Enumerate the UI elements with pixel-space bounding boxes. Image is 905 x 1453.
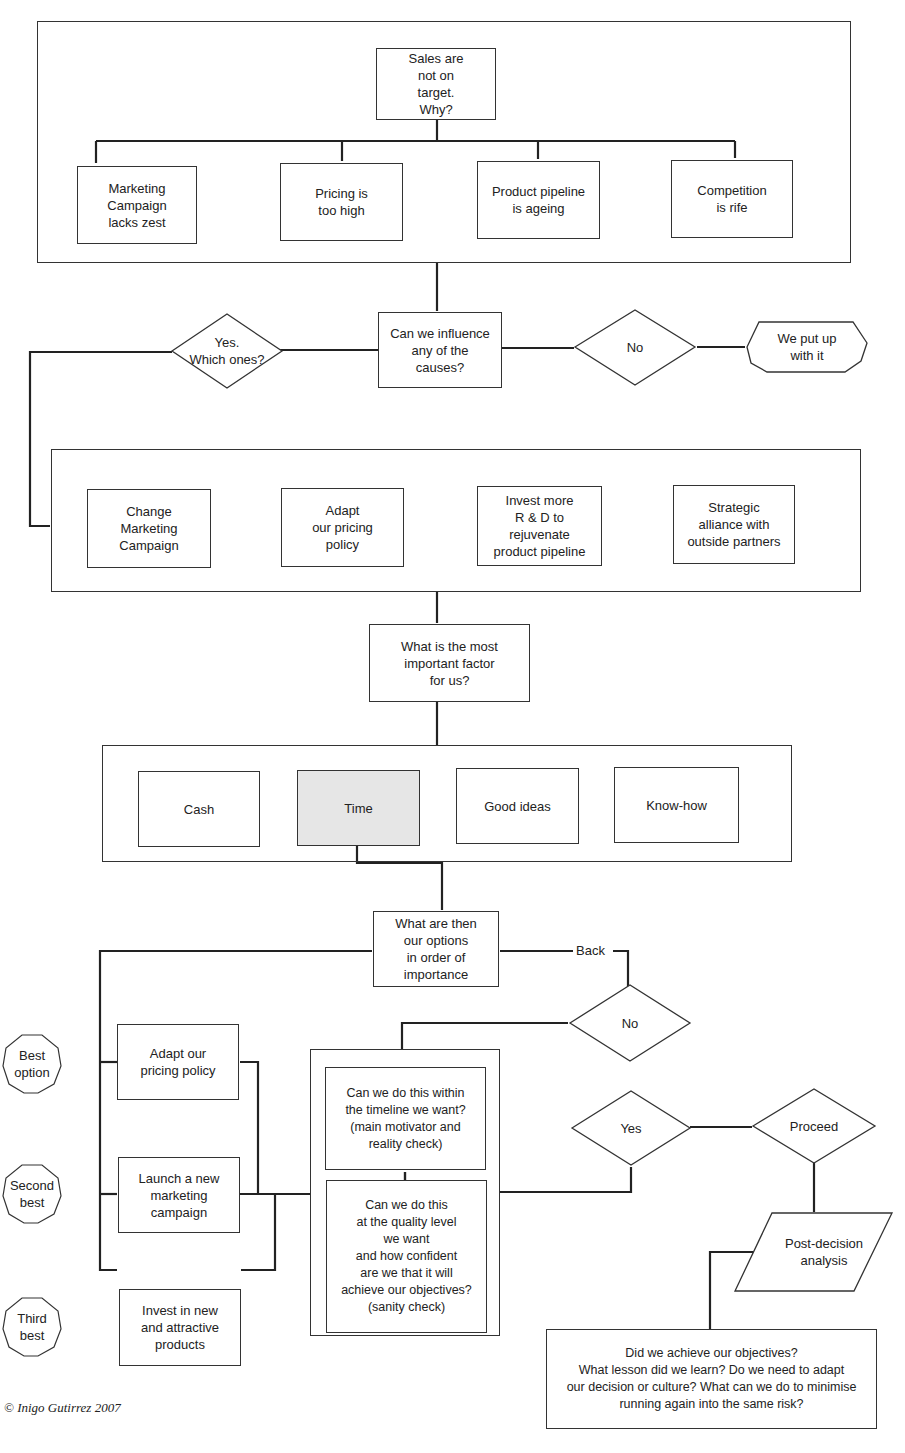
put-up-with-it-terminal: We put up with it: [745, 321, 869, 373]
factor-cash-box: Cash: [138, 771, 260, 847]
option-products-box: Invest in new and attractive products: [119, 1289, 241, 1366]
cause-marketing-box: Marketing Campaign lacks zest: [77, 166, 197, 244]
check-no-diamond: No: [568, 984, 692, 1062]
copyright-caption: © Inigo Gutirrez 2007: [4, 1400, 121, 1416]
action-rnd-box: Invest more R & D to rejuvenate product …: [477, 486, 602, 566]
back-label: Back: [573, 942, 608, 959]
review-questions-box: Did we achieve our objectives? What less…: [546, 1329, 877, 1429]
option-pricing-box: Adapt our pricing policy: [117, 1024, 239, 1100]
quality-check-box: Can we do this at the quality level we w…: [326, 1180, 487, 1333]
cause-pipeline-box: Product pipeline is ageing: [477, 161, 600, 239]
check-yes-diamond: Yes: [570, 1090, 692, 1166]
factor-time-box-selected: Time: [297, 770, 420, 846]
rank-best-octagon: Best option: [2, 1034, 62, 1094]
factor-know-how-box: Know-how: [614, 767, 739, 843]
post-decision-parallelogram: Post-decision analysis: [734, 1212, 894, 1292]
option-marketing-box: Launch a new marketing campaign: [118, 1157, 240, 1233]
action-pricing-box: Adapt our pricing policy: [281, 488, 404, 567]
cause-pricing-box: Pricing is too high: [280, 163, 403, 241]
timeline-check-box: Can we do this within the timeline we wa…: [325, 1067, 486, 1170]
root-problem-box: Sales are not on target. Why?: [376, 48, 496, 120]
options-question-box: What are then our options in order of im…: [373, 911, 499, 987]
influence-question-box: Can we influence any of the causes?: [378, 312, 502, 388]
decision-flowchart: Sales are not on target. Why? Marketing …: [0, 0, 905, 1453]
factor-good-ideas-box: Good ideas: [456, 768, 579, 844]
rank-third-octagon: Third best: [2, 1297, 62, 1357]
no-influence-diamond: No: [570, 309, 700, 386]
action-marketing-box: Change Marketing Campaign: [87, 489, 211, 568]
yes-which-ones-diamond: Yes. Which ones?: [168, 313, 286, 389]
important-factor-question-box: What is the most important factor for us…: [369, 624, 530, 702]
rank-second-octagon: Second best: [2, 1164, 62, 1224]
cause-competition-box: Competition is rife: [671, 160, 793, 238]
action-alliance-box: Strategic alliance with outside partners: [673, 485, 795, 564]
proceed-diamond: Proceed: [751, 1088, 877, 1164]
